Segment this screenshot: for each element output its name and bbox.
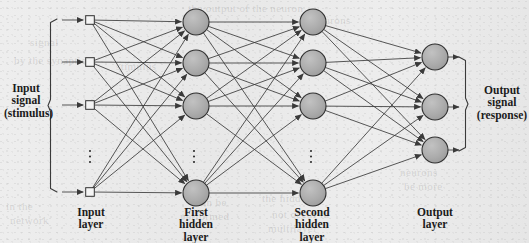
edge-second-hidden-layer-1-to-output-layer-0	[326, 58, 421, 63]
node-input-layer-1	[86, 58, 95, 67]
node-second-hidden-layer-0	[300, 9, 326, 35]
node-output-layer-0	[422, 44, 448, 70]
ellipsis-first-hidden-layer-dot-2	[193, 161, 195, 163]
edge-first-hidden-layer-2-to-second-hidden-layer-1	[208, 68, 299, 102]
output-layer-label-line-1: layer	[408, 218, 462, 230]
edge-first-hidden-layer-1-to-second-hidden-layer-2	[208, 67, 299, 101]
edge-first-hidden-layer-2-to-second-hidden-layer-0	[207, 30, 302, 98]
first-hidden-layer-label-line-1: hidden	[169, 218, 223, 230]
node-first-hidden-layer-1	[183, 50, 209, 76]
input-layer-label-line-1: layer	[64, 218, 118, 230]
node-input-layer-0	[86, 16, 95, 25]
output-signal-brace	[459, 57, 468, 151]
first-hidden-layer-label-line-0: First	[169, 206, 223, 218]
edge-input-layer-1-to-first-hidden-layer-0	[94, 27, 182, 60]
input-layer-label-line-0: Input	[64, 206, 118, 218]
second-hidden-layer-label-line-2: layer	[281, 231, 343, 243]
first-hidden-layer-label-line-2: layer	[169, 231, 223, 243]
node-first-hidden-layer-2	[183, 93, 209, 119]
node-input-layer-3	[86, 188, 95, 197]
input-layer-label: Inputlayer	[64, 206, 118, 231]
node-second-hidden-layer-1	[300, 50, 326, 76]
edge-input-layer-1-to-first-hidden-layer-1	[94, 62, 181, 63]
edge-second-hidden-layer-0-to-output-layer-1	[324, 29, 423, 98]
edge-input-layer-2-to-first-hidden-layer-0	[93, 31, 184, 102]
edge-second-hidden-layer-2-to-output-layer-2	[325, 110, 421, 145]
input-signal-label-line-2: (stimulus)	[4, 107, 48, 119]
node-second-hidden-layer-3	[300, 180, 326, 206]
edge-first-hidden-layer-0-to-second-hidden-layer-1	[208, 26, 299, 58]
edge-first-hidden-layer-3-to-second-hidden-layer-2	[206, 115, 301, 186]
output-signal-label-line-0: Output	[476, 84, 528, 96]
ellipsis-input-layer-dot-1	[89, 155, 91, 157]
input-signal-label: Inputsignal(stimulus)	[4, 82, 48, 119]
edge-input-layer-0-to-first-hidden-layer-0	[94, 20, 181, 22]
edge-group	[62, 20, 459, 193]
ellipsis-second-hidden-layer-dot-2	[310, 161, 312, 163]
edge-first-hidden-layer-1-to-second-hidden-layer-0	[208, 27, 299, 59]
node-second-hidden-layer-2	[300, 93, 326, 119]
second-hidden-layer-label-line-1: hidden	[281, 218, 343, 230]
node-output-layer-2	[422, 137, 448, 163]
edge-input-layer-2-to-first-hidden-layer-3	[93, 108, 185, 184]
ellipsis-first-hidden-layer-dot-0	[193, 150, 195, 152]
edge-second-hidden-layer-0-to-output-layer-0	[326, 26, 422, 53]
ellipsis-first-hidden-layer-dot-1	[193, 155, 195, 157]
node-first-hidden-layer-3	[183, 180, 209, 206]
output-signal-label-line-2: (response)	[476, 109, 528, 121]
node-input-layer-2	[86, 101, 95, 110]
edge-first-hidden-layer-3-to-second-hidden-layer-0	[203, 34, 304, 182]
edge-second-hidden-layer-1-to-output-layer-1	[325, 67, 421, 102]
ellipsis-input-layer-dot-0	[89, 150, 91, 152]
output-layer-label: Outputlayer	[408, 206, 462, 231]
second-hidden-layer-label-line-0: Second	[281, 206, 343, 218]
edge-second-hidden-layer-2-to-output-layer-1	[326, 106, 421, 107]
node-first-hidden-layer-0	[183, 9, 209, 35]
edge-input-layer-2-to-first-hidden-layer-2	[94, 105, 181, 106]
edge-input-layer-3-to-first-hidden-layer-3	[94, 192, 181, 193]
ellipsis-input-layer-dot-2	[89, 161, 91, 163]
edge-first-hidden-layer-0-to-second-hidden-layer-2	[207, 30, 302, 98]
edge-input-layer-0-to-first-hidden-layer-1	[94, 22, 183, 58]
ellipsis-second-hidden-layer-dot-1	[310, 155, 312, 157]
node-output-layer-1	[422, 94, 448, 120]
output-signal-label-line-1: signal	[476, 96, 528, 108]
edge-first-hidden-layer-2-to-second-hidden-layer-3	[206, 114, 301, 185]
input-signal-label-line-1: signal	[4, 94, 48, 106]
figure-canvas: the output of the neuronsignalby the syn…	[0, 0, 529, 243]
edge-input-layer-0-to-first-hidden-layer-3	[92, 24, 188, 181]
output-layer-label-line-0: Output	[408, 206, 462, 218]
input-signal-brace	[48, 19, 57, 192]
edge-second-hidden-layer-3-to-output-layer-2	[325, 155, 421, 189]
ellipsis-second-hidden-layer-dot-0	[310, 150, 312, 152]
output-signal-label: Outputsignal(response)	[476, 84, 528, 121]
edge-first-hidden-layer-3-to-second-hidden-layer-1	[205, 74, 304, 184]
input-signal-label-line-0: Input	[4, 82, 48, 94]
first-hidden-layer-label: Firsthiddenlayer	[169, 206, 223, 243]
second-hidden-layer-label: Secondhiddenlayer	[281, 206, 343, 243]
